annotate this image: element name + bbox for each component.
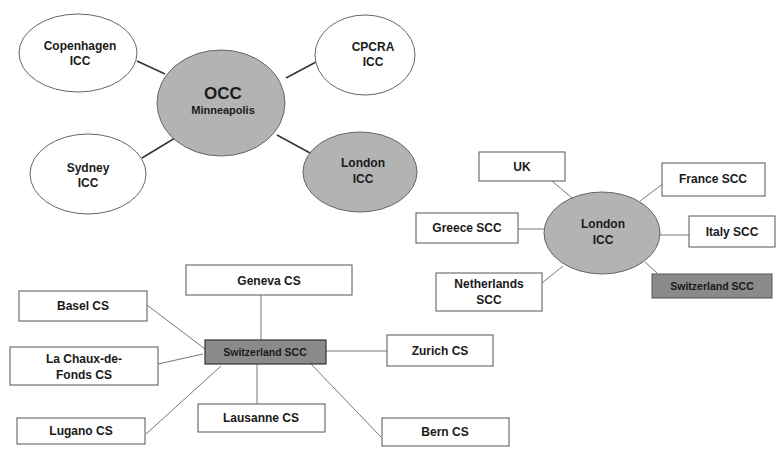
node-cpcra-icc: CPCRA ICC — [315, 15, 415, 95]
connector-uk — [552, 181, 572, 198]
connector-la-chaux — [158, 354, 203, 364]
occ-hub-diagram: Copenhagen ICC CPCRA ICC Sydney ICC Lond… — [19, 14, 417, 214]
node-label: Bern CS — [421, 425, 468, 439]
london-hub-diagram: UK France SCC Greece SCC Italy SCC Nethe… — [416, 152, 775, 311]
node-netherlands-scc: Netherlands SCC — [436, 273, 542, 311]
node-zurich-cs: Zurich CS — [387, 335, 493, 366]
node-label: Lausanne CS — [223, 411, 299, 425]
node-label-line1: Netherlands — [454, 277, 524, 291]
connector-sydney — [142, 138, 175, 158]
center-label-line1: OCC — [204, 84, 242, 103]
node-label: Lugano CS — [49, 424, 112, 438]
connector-cpcra — [286, 62, 316, 78]
node-switzerland-scc-small: Switzerland SCC — [652, 274, 772, 298]
node-la-chaux-de-fonds-cs: La Chaux-de- Fonds CS — [10, 347, 158, 385]
node-bern-cs: Bern CS — [382, 418, 509, 446]
node-label: Basel CS — [57, 299, 109, 313]
node-sydney-icc: Sydney ICC — [30, 134, 146, 214]
node-label: Switzerland SCC — [670, 280, 754, 292]
node-france-scc: France SCC — [662, 163, 765, 196]
node-label-line2: ICC — [353, 172, 374, 186]
connector-london — [277, 135, 310, 153]
node-label-line2: ICC — [363, 55, 384, 69]
node-basel-cs: Basel CS — [19, 291, 147, 321]
connector-switzerland — [645, 262, 657, 273]
node-label-line1: London — [341, 156, 385, 170]
clearing-network-diagram: Copenhagen ICC CPCRA ICC Sydney ICC Lond… — [0, 0, 783, 459]
node-uk: UK — [479, 152, 565, 181]
connector-netherlands — [542, 266, 563, 283]
node-label-line1: CPCRA — [352, 40, 395, 54]
connector-copenhagen — [137, 61, 165, 74]
node-label: Italy SCC — [706, 225, 759, 239]
node-copenhagen-icc: Copenhagen ICC — [19, 14, 137, 92]
node-label-line1: Copenhagen — [44, 39, 117, 53]
center-label-line2: Minneapolis — [191, 104, 255, 116]
node-label-line2: ICC — [70, 54, 91, 68]
node-label: Zurich CS — [412, 344, 469, 358]
connector-france — [640, 183, 664, 201]
center-label: Switzerland SCC — [223, 346, 307, 358]
node-geneva-cs: Geneva CS — [186, 265, 352, 295]
node-label-line2: SCC — [476, 293, 502, 307]
node-label: Greece SCC — [432, 221, 502, 235]
node-label: UK — [513, 160, 531, 174]
node-greece-scc: Greece SCC — [416, 213, 518, 243]
switzerland-hub-diagram: Geneva CS Basel CS La Chaux-de- Fonds CS… — [10, 265, 509, 446]
node-italy-scc: Italy SCC — [689, 216, 775, 247]
node-label-line1: Sydney — [67, 161, 110, 175]
node-switzerland-scc-center: Switzerland SCC — [205, 340, 326, 364]
node-london-icc-center: London ICC — [544, 192, 660, 274]
node-label-line1: La Chaux-de- — [46, 352, 122, 366]
center-label-line2: ICC — [593, 233, 614, 247]
node-label: Geneva CS — [237, 274, 300, 288]
node-lausanne-cs: Lausanne CS — [198, 404, 325, 432]
node-london-icc: London ICC — [303, 132, 417, 212]
center-label-line1: London — [581, 217, 625, 231]
node-occ-minneapolis: OCC Minneapolis — [157, 50, 285, 156]
node-label-line2: Fonds CS — [56, 368, 112, 382]
connector-basel — [147, 305, 205, 349]
node-label: France SCC — [679, 172, 747, 186]
node-label-line2: ICC — [78, 176, 99, 190]
node-lugano-cs: Lugano CS — [17, 418, 145, 444]
